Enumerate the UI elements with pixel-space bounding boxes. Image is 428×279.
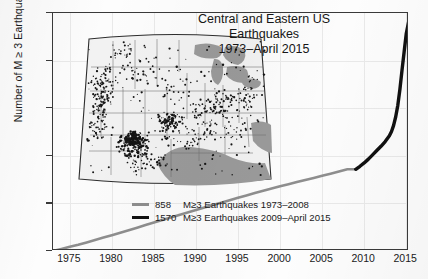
epicenter-dot xyxy=(198,104,199,105)
epicenter-dot xyxy=(104,77,106,79)
legend-swatch-1 xyxy=(132,203,149,206)
series-line-2009-2015 xyxy=(356,20,408,169)
epicenter-dot xyxy=(102,121,103,122)
epicenter-dot xyxy=(93,85,94,86)
epicenter-dot xyxy=(229,148,230,149)
x-tick-1980: 1980 xyxy=(91,252,131,264)
epicenter-dot xyxy=(215,101,217,103)
epicenter-dot xyxy=(174,103,176,105)
epicenter-dot xyxy=(177,141,178,142)
epicenter-dot xyxy=(143,107,144,108)
epicenter-dot xyxy=(199,117,200,118)
epicenter-dot xyxy=(168,116,170,118)
epicenter-dot xyxy=(248,100,249,101)
epicenter-dot xyxy=(168,70,170,72)
epicenter-dot xyxy=(104,127,105,128)
epicenter-dot xyxy=(146,75,147,76)
epicenter-dot xyxy=(183,108,185,110)
epicenter-dot xyxy=(119,53,120,54)
epicenter-dot xyxy=(110,101,111,102)
epicenter-dot xyxy=(126,54,127,55)
epicenter-dot xyxy=(141,160,142,161)
epicenter-dot xyxy=(121,140,123,142)
epicenter-dot xyxy=(152,65,154,67)
epicenter-dot xyxy=(106,126,108,128)
epicenter-dot xyxy=(150,158,152,160)
epicenter-dot xyxy=(191,129,192,130)
epicenter-dot xyxy=(227,97,228,98)
epicenter-dot xyxy=(137,94,138,95)
epicenter-dot xyxy=(233,129,234,130)
epicenter-dot xyxy=(193,130,195,132)
epicenter-dot xyxy=(89,89,90,90)
epicenter-dot xyxy=(96,70,98,72)
epicenter-dot xyxy=(115,76,116,77)
epicenter-dot xyxy=(149,161,150,162)
epicenter-dot xyxy=(104,110,105,111)
epicenter-dot xyxy=(165,131,166,132)
epicenter-dot xyxy=(96,134,98,136)
epicenter-dot xyxy=(244,146,246,148)
epicenter-dot xyxy=(248,152,250,154)
x-tick-1975: 1975 xyxy=(49,252,89,264)
epicenter-dot xyxy=(201,168,203,170)
epicenter-dot xyxy=(123,142,125,144)
epicenter-dot xyxy=(88,49,89,50)
epicenter-dot xyxy=(182,91,184,93)
epicenter-dot xyxy=(162,130,164,132)
epicenter-dot xyxy=(102,91,104,93)
epicenter-dot xyxy=(237,109,239,111)
epicenter-dot xyxy=(144,74,145,75)
epicenter-dot xyxy=(192,145,194,147)
epicenter-dot xyxy=(110,103,111,104)
epicenter-dot xyxy=(215,113,217,115)
epicenter-dot xyxy=(237,93,239,95)
epicenter-dot xyxy=(112,126,114,128)
epicenter-dot xyxy=(111,134,113,136)
epicenter-dot xyxy=(178,130,180,132)
epicenter-dot xyxy=(248,107,249,108)
epicenter-dot xyxy=(167,120,169,122)
epicenter-dot xyxy=(168,47,170,49)
epicenter-dot xyxy=(117,82,118,83)
epicenter-dot xyxy=(103,109,104,110)
epicenter-dot xyxy=(146,163,148,165)
epicenter-dot xyxy=(223,89,225,91)
epicenter-dot xyxy=(200,99,202,101)
epicenter-dot xyxy=(130,48,132,50)
epicenter-dot xyxy=(172,130,174,132)
epicenter-dot xyxy=(216,64,217,65)
epicenter-dot xyxy=(111,84,113,86)
epicenter-dot xyxy=(228,121,230,123)
epicenter-dot xyxy=(246,104,247,105)
epicenter-dot xyxy=(134,141,136,143)
epicenter-dot xyxy=(92,111,94,113)
epicenter-dot xyxy=(139,134,140,135)
epicenter-dot xyxy=(176,124,178,126)
epicenter-dot xyxy=(109,63,110,64)
epicenter-dot xyxy=(144,149,146,151)
epicenter-dot xyxy=(155,56,157,58)
epicenter-dot xyxy=(90,81,92,83)
epicenter-dot xyxy=(239,92,241,94)
epicenter-dot xyxy=(148,110,149,111)
epicenter-dot xyxy=(90,165,91,166)
epicenter-dot xyxy=(118,150,120,152)
epicenter-dot xyxy=(120,50,122,52)
epicenter-dot xyxy=(176,66,178,68)
epicenter-dot xyxy=(252,166,253,167)
epicenter-dot xyxy=(172,114,173,115)
epicenter-dot xyxy=(204,123,205,124)
epicenter-dot xyxy=(147,147,149,149)
epicenter-dot xyxy=(99,79,101,81)
epicenter-dot xyxy=(173,86,174,87)
x-tick-2000: 2000 xyxy=(259,252,299,264)
epicenter-dot xyxy=(148,61,150,63)
epicenter-dot xyxy=(226,133,227,134)
epicenter-dot xyxy=(135,160,137,162)
epicenter-dot xyxy=(206,123,207,124)
epicenter-dot xyxy=(140,149,142,151)
epicenter-dot xyxy=(250,80,252,82)
epicenter-dot xyxy=(180,78,182,80)
epicenter-dot xyxy=(157,85,159,87)
